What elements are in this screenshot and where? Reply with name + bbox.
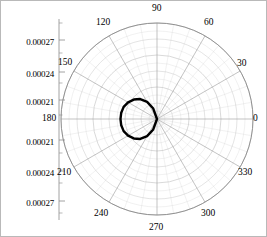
angle-tick-label-210: 210 (57, 167, 71, 177)
radial-tick-label: 0.00027 (26, 37, 54, 47)
radial-axis-ticks (59, 23, 65, 213)
radial-tick-label: 0.00024 (26, 168, 54, 178)
angle-tick-label-150: 150 (58, 57, 72, 67)
radial-tick-label: 0.00027 (26, 198, 54, 208)
angle-tick-label-60: 60 (204, 17, 214, 27)
angle-tick-label-90: 90 (152, 3, 162, 13)
angle-tick-label-180: 180 (42, 113, 56, 123)
radial-tick-label: 0.00021 (26, 97, 54, 107)
angle-tick-label-240: 240 (94, 208, 108, 218)
angle-tick-label-270: 270 (149, 222, 163, 232)
angle-tick-label-120: 120 (96, 17, 110, 27)
polar-chart-figure: 0.000270.000240.000210.000210.000240.000… (0, 0, 267, 237)
angle-tick-label-0: 0 (253, 113, 258, 123)
angle-tick-label-300: 300 (201, 208, 215, 218)
angle-tick-label-30: 30 (237, 58, 247, 68)
radial-tick-label: 0.00021 (26, 137, 54, 147)
radial-tick-label: 0.00024 (26, 69, 54, 79)
angle-tick-label-330: 330 (238, 167, 252, 177)
